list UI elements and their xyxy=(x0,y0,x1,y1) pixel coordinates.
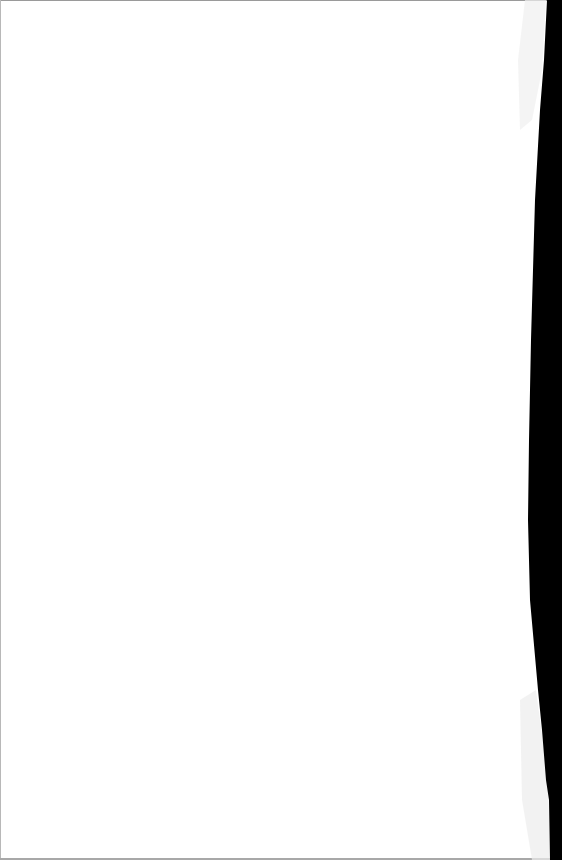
scan-edge-black xyxy=(528,0,562,860)
scan-border-left xyxy=(0,0,1,860)
scanned-page xyxy=(0,0,562,860)
page-body-blank xyxy=(40,40,500,820)
edge-speckle-bottom xyxy=(520,690,550,860)
edge-speckle-top xyxy=(518,0,546,130)
scan-border-top xyxy=(0,0,548,1)
